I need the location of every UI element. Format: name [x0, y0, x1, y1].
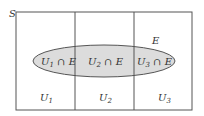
set-label-s: S [9, 8, 16, 19]
partition-label-u1: U1 [40, 92, 53, 105]
partition-label-u3: U3 [158, 92, 171, 105]
partition-label-u2: U2 [99, 92, 112, 105]
event-label-e: E [151, 35, 160, 46]
partition-diagram: S E U1 ∩ E U2 ∩ E U3 ∩ E U1 U2 U3 [0, 0, 204, 116]
